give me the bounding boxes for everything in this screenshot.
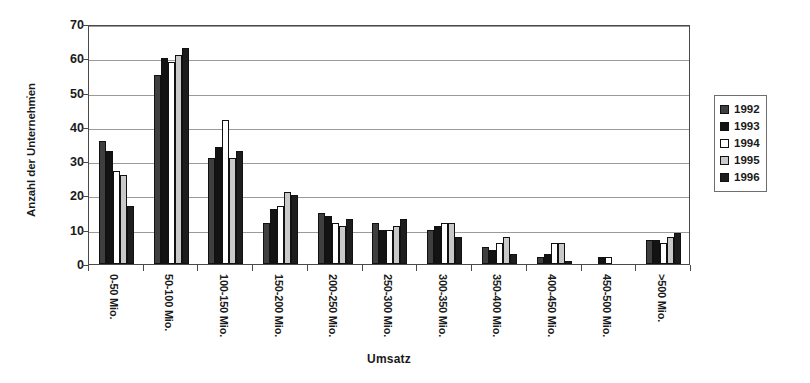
y-axis-tick-label: 40 <box>44 122 84 135</box>
bar <box>222 120 229 264</box>
legend-item-label: 1992 <box>734 104 760 116</box>
bar-group <box>89 26 144 264</box>
legend-swatch-icon <box>720 173 729 182</box>
y-axis-title: Anzahl der Unternehmen <box>22 30 40 270</box>
bar-group <box>636 26 691 264</box>
bar <box>400 219 407 264</box>
legend-item: 1995 <box>720 152 760 169</box>
bar <box>646 240 653 264</box>
bar <box>660 243 667 264</box>
x-axis-category-label: 50-100 Mio. <box>164 274 174 364</box>
bar <box>441 223 448 264</box>
bar <box>598 257 605 264</box>
x-axis-tick-mark <box>362 265 363 271</box>
bar <box>284 192 291 264</box>
bar <box>113 171 120 264</box>
bar <box>236 151 243 264</box>
y-axis-tick-label: 60 <box>44 53 84 66</box>
x-axis-category-label: 300-350 Mio. <box>438 274 448 364</box>
legend-item: 1996 <box>720 169 760 186</box>
y-axis-tick-label: 50 <box>44 88 84 101</box>
x-axis-tick-mark <box>471 265 472 271</box>
bar <box>551 243 558 264</box>
x-axis-tick-mark <box>252 265 253 271</box>
x-axis-category-label: 200-250 Mio. <box>328 274 338 364</box>
x-axis-category-label: >500 Mio. <box>657 274 667 364</box>
x-axis-category-label: 250-300 Mio. <box>383 274 393 364</box>
bar <box>565 261 572 264</box>
legend-item-label: 1995 <box>734 155 760 167</box>
x-axis-tick-mark <box>690 265 691 271</box>
bar <box>120 175 127 264</box>
legend-swatch-icon <box>720 139 729 148</box>
chart-legend: 19921993199419951996 <box>714 95 767 192</box>
bar <box>127 206 134 264</box>
bar <box>537 257 544 264</box>
bar-group <box>144 26 199 264</box>
y-axis-tick-label: 10 <box>44 225 84 238</box>
bar <box>182 48 189 264</box>
bar <box>455 237 462 264</box>
bar-chart: Anzahl der Unternehmen 706050403020100 0… <box>0 0 810 383</box>
bar <box>175 55 182 264</box>
x-axis-category-label: 0-50 Mio. <box>109 274 119 364</box>
bar-group <box>308 26 363 264</box>
x-axis-tick-mark <box>526 265 527 271</box>
bar <box>544 254 551 264</box>
bar-group <box>363 26 418 264</box>
bar <box>325 216 332 264</box>
x-axis-category-label: 400-450 Mio. <box>547 274 557 364</box>
x-axis-title: Umsatz <box>88 352 690 366</box>
y-axis-tick-label: 30 <box>44 156 84 169</box>
bar <box>379 230 386 264</box>
bar <box>482 247 489 264</box>
bar <box>489 250 496 264</box>
x-axis-tick-mark <box>143 265 144 271</box>
bar <box>161 58 168 264</box>
y-axis-tick-label: 0 <box>44 259 84 272</box>
bar <box>393 226 400 264</box>
bar <box>510 254 517 264</box>
x-axis-tick-mark <box>307 265 308 271</box>
bar <box>318 213 325 264</box>
legend-swatch-icon <box>720 156 729 165</box>
legend-item-label: 1994 <box>734 138 760 150</box>
legend-swatch-icon <box>720 105 729 114</box>
bar <box>448 223 455 264</box>
bar <box>667 237 674 264</box>
legend-item: 1992 <box>720 101 760 118</box>
bar-group <box>417 26 472 264</box>
plot-area <box>88 25 690 265</box>
bar <box>291 195 298 264</box>
bar <box>434 226 441 264</box>
bar <box>263 223 270 264</box>
x-axis-category-label: 150-200 Mio. <box>274 274 284 364</box>
legend-item: 1993 <box>720 118 760 135</box>
bar <box>372 223 379 264</box>
bar-group <box>582 26 637 264</box>
bar <box>229 158 236 264</box>
legend-item-label: 1996 <box>734 172 760 184</box>
bar <box>496 243 503 264</box>
bar <box>168 62 175 264</box>
bar <box>277 206 284 264</box>
bar <box>605 257 612 264</box>
x-axis-category-label: 350-400 Mio. <box>492 274 502 364</box>
x-axis-tick-mark <box>197 265 198 271</box>
y-axis-tick-label: 70 <box>44 19 84 32</box>
bar-group <box>253 26 308 264</box>
x-axis-tick-mark <box>416 265 417 271</box>
bar <box>674 233 681 264</box>
x-axis-tick-mark <box>581 265 582 271</box>
bar-group <box>472 26 527 264</box>
bar <box>270 209 277 264</box>
legend-item: 1994 <box>720 135 760 152</box>
bar <box>339 226 346 264</box>
bar <box>332 223 339 264</box>
legend-swatch-icon <box>720 122 729 131</box>
bar <box>653 240 660 264</box>
bar <box>106 151 113 264</box>
bar <box>427 230 434 264</box>
x-axis-category-label: 450-500 Mio. <box>602 274 612 364</box>
bar-group <box>527 26 582 264</box>
